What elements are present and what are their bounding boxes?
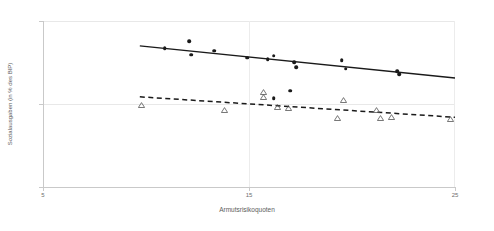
data-point-circle: [340, 58, 344, 62]
data-point-circle: [398, 72, 402, 76]
data-point-circle: [272, 54, 276, 58]
data-point-circle: [212, 49, 216, 53]
data-point-circle: [293, 60, 297, 64]
data-point-circle: [187, 40, 191, 44]
data-point-circle: [190, 53, 194, 57]
data-point-circle: [245, 56, 249, 60]
data-point-circle: [163, 46, 167, 50]
data-point-circle: [272, 96, 276, 100]
data-point-circle: [288, 89, 292, 93]
data-point-circle: [295, 65, 299, 69]
marker-layer: [0, 0, 494, 231]
scatter-chart-figure: 5 15 25 35,0 20,0 5,0 Armutsrisikoquoten…: [0, 0, 494, 231]
data-point-circle: [344, 67, 348, 71]
data-point-circle: [266, 57, 270, 61]
